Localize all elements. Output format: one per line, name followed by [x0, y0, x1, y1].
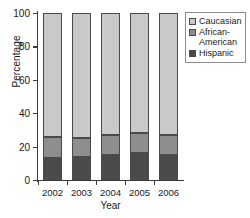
bar-segment-caucasian: [101, 13, 120, 135]
legend-label: Caucasian: [199, 16, 242, 26]
x-axis-line: [37, 180, 184, 181]
y-axis-tick: [33, 113, 38, 114]
bar-segment-hispanic: [43, 158, 62, 180]
legend-label: African- American: [199, 27, 237, 47]
legend-swatch-icon: [189, 50, 196, 57]
legend-item: African- American: [188, 27, 242, 47]
y-axis-tick-label: 20: [19, 141, 30, 152]
stacked-bar-chart: Percentage 02040608010020022003200420052…: [0, 0, 250, 218]
bar-segment-caucasian: [159, 13, 178, 135]
x-axis-tick-label: 2005: [129, 187, 150, 198]
x-axis-tick: [96, 180, 97, 185]
x-axis-tick: [154, 180, 155, 185]
bar-2002: [43, 13, 62, 180]
x-axis-tick-label: 2003: [71, 187, 92, 198]
x-axis-tick: [38, 180, 39, 185]
bar-2006: [159, 13, 178, 180]
y-axis-tick-label: 100: [13, 8, 30, 19]
x-axis-tick: [125, 180, 126, 185]
bar-segment-caucasian: [72, 13, 91, 138]
y-axis-tick: [33, 46, 38, 47]
bar-2005: [130, 13, 149, 180]
chart-legend: CaucasianAfrican- AmericanHispanic: [185, 12, 246, 63]
bar-segment-african-american: [101, 135, 120, 155]
x-axis-tick-label: 2004: [100, 187, 121, 198]
y-axis-tick-label: 40: [19, 108, 30, 119]
y-axis-tick: [33, 80, 38, 81]
bar-segment-caucasian: [130, 13, 149, 133]
y-axis-tick: [33, 147, 38, 148]
legend-item: Caucasian: [188, 16, 242, 26]
bar-segment-african-american: [130, 133, 149, 153]
bar-segment-african-american: [72, 138, 91, 156]
bar-segment-hispanic: [130, 153, 149, 180]
bar-2003: [72, 13, 91, 180]
x-axis-tick-label: 2002: [42, 187, 63, 198]
bar-2004: [101, 13, 120, 180]
bar-segment-african-american: [43, 137, 62, 159]
x-axis-tick: [67, 180, 68, 185]
legend-item: Hispanic: [188, 48, 242, 58]
bar-segment-african-american: [159, 135, 178, 155]
y-axis-tick-label: 0: [24, 175, 30, 186]
y-axis-tick: [33, 13, 38, 14]
x-axis-title: Year: [38, 200, 183, 211]
y-axis-title: Percentage: [11, 22, 22, 102]
y-axis-tick-label: 80: [19, 41, 30, 52]
y-axis-tick-label: 60: [19, 74, 30, 85]
legend-label: Hispanic: [199, 48, 234, 58]
bar-segment-hispanic: [72, 157, 91, 180]
bar-segment-hispanic: [159, 155, 178, 180]
plot-area: 02040608010020022003200420052006: [38, 13, 183, 180]
legend-swatch-icon: [189, 29, 196, 36]
legend-swatch-icon: [189, 18, 196, 25]
bar-segment-hispanic: [101, 155, 120, 180]
bar-segment-caucasian: [43, 13, 62, 137]
x-axis-tick-label: 2006: [158, 187, 179, 198]
